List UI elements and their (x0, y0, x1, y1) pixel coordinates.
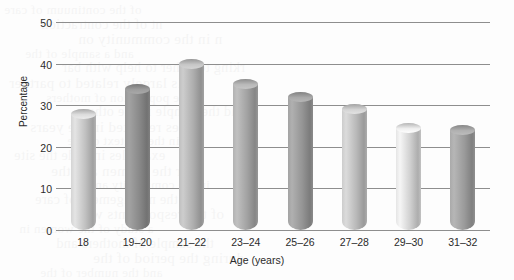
bar (179, 59, 204, 230)
bar (71, 109, 96, 230)
y-axis-tick-label: 10 (18, 183, 52, 195)
y-axis-tick-label: 20 (18, 142, 52, 154)
bar (342, 104, 367, 230)
axis-baseline (56, 230, 490, 231)
bar (396, 123, 421, 230)
plot-area (56, 12, 490, 230)
bar-body (450, 130, 475, 230)
x-axis-tick-label: 18 (53, 236, 113, 248)
bar-chart: Percentage 01020304050 1819–2021–2223–24… (0, 0, 514, 280)
y-axis-tick-label: 0 (18, 225, 52, 237)
bar-body (288, 97, 313, 230)
bar-body (233, 84, 258, 230)
bar (450, 125, 475, 230)
gridline (56, 105, 490, 106)
gridline (56, 147, 490, 148)
bar-top-cap (71, 109, 96, 119)
y-axis-tick-label: 30 (18, 100, 52, 112)
x-axis-tick-label: 27–28 (324, 236, 384, 248)
x-axis-tick-label: 21–22 (162, 236, 222, 248)
bar-body (396, 128, 421, 230)
gridline (56, 64, 490, 65)
y-axis-tick-label: 50 (18, 17, 52, 29)
bar-body (179, 64, 204, 230)
bar (288, 92, 313, 230)
x-axis-tick-label: 19–20 (107, 236, 167, 248)
bar-top-cap (125, 84, 150, 94)
y-axis-title-container: Percentage (16, 0, 30, 230)
gridline (56, 188, 490, 189)
bar (233, 79, 258, 230)
x-axis-tick-label: 31–32 (433, 236, 493, 248)
bar-body (71, 114, 96, 230)
x-axis-tick-label: 25–26 (270, 236, 330, 248)
x-axis-title: Age (years) (0, 254, 514, 266)
bar-top-cap (288, 92, 313, 102)
bar-top-cap (179, 59, 204, 69)
bar (125, 84, 150, 230)
x-axis-tick-label: 29–30 (379, 236, 439, 248)
y-axis-tick-label: 40 (18, 59, 52, 71)
gridline (56, 22, 490, 23)
bar-body (342, 109, 367, 230)
bar-body (125, 89, 150, 230)
x-axis-tick-label: 23–24 (216, 236, 276, 248)
